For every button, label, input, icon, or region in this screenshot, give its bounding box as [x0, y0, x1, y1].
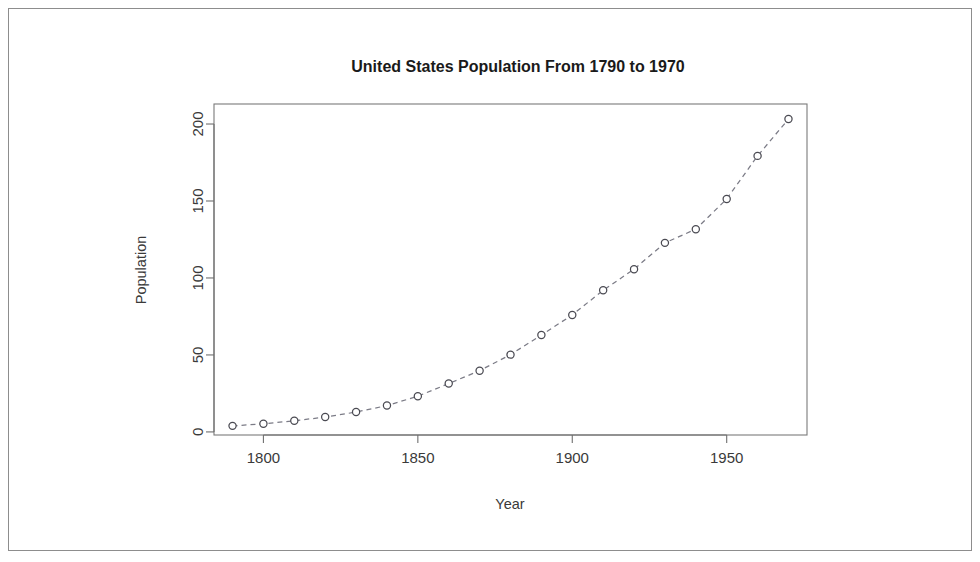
data-point-marker: 1820: 9.64 — [322, 413, 329, 420]
x-tick-label: 1900 — [556, 449, 589, 466]
y-tick-label: 150 — [190, 188, 207, 213]
data-point-marker: 1830: 12.9 — [352, 408, 359, 415]
data-point-marker: 1890: 62.9 — [538, 331, 545, 338]
data-point-marker: 1950: 151.3 — [723, 195, 730, 202]
x-tick-label: 1950 — [710, 449, 743, 466]
y-tick-label: 200 — [190, 111, 207, 136]
data-point-marker: 1850: 23.2 — [414, 393, 421, 400]
data-point-marker: 1860: 31.4 — [445, 380, 452, 387]
data-point-marker: 1880: 50.2 — [507, 351, 514, 358]
data-point-marker: 1970: 203.2 — [785, 115, 792, 122]
plot-panel-border — [214, 104, 807, 435]
population-line-chart: United States Population From 1790 to 19… — [9, 9, 973, 552]
chart-title: United States Population From 1790 to 19… — [351, 58, 685, 75]
data-point-marker: 1940: 131.7 — [692, 226, 699, 233]
data-point-marker: 1960: 179.3 — [754, 152, 761, 159]
data-point-marker: 1910: 92 — [600, 287, 607, 294]
y-axis-title: Population — [133, 236, 149, 305]
data-point-marker: 1790: 3.93 — [229, 422, 236, 429]
data-point-marker: 1870: 39.8 — [476, 367, 483, 374]
x-axis-title: Year — [495, 496, 524, 512]
data-point-marker: 1810: 7.24 — [291, 417, 298, 424]
y-axis: 050100150200 — [190, 111, 215, 436]
data-point-marker: 1900: 76 — [569, 311, 576, 318]
data-point-marker: 1800: 5.31 — [260, 420, 267, 427]
x-tick-label: 1850 — [401, 449, 434, 466]
y-tick-label: 0 — [190, 428, 207, 436]
screenshot-root: United States Population From 1790 to 19… — [0, 0, 980, 562]
data-point-marker: 1840: 17.1 — [383, 402, 390, 409]
x-tick-label: 1800 — [247, 449, 280, 466]
data-series-population: 1790: 3.931800: 5.311810: 7.241820: 9.64… — [229, 115, 792, 429]
y-tick-label: 50 — [190, 347, 207, 364]
data-point-marker: 1930: 122.8 — [661, 239, 668, 246]
y-tick-label: 100 — [190, 265, 207, 290]
data-point-marker: 1920: 105.7 — [630, 266, 637, 273]
chart-plot-area: United States Population From 1790 to 19… — [9, 9, 973, 552]
x-axis: 1800185019001950 — [247, 435, 744, 466]
figure-frame: United States Population From 1790 to 19… — [8, 8, 972, 551]
series-dashed-line — [233, 119, 789, 426]
